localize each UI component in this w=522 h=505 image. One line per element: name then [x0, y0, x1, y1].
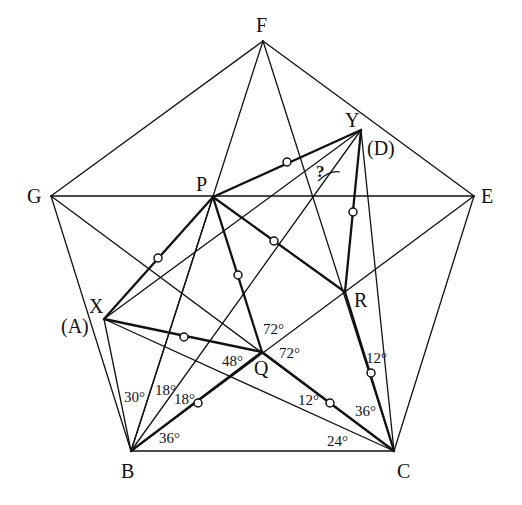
angle-B-36: 36°: [159, 430, 180, 446]
equal-length-mark-icon: [180, 333, 188, 341]
angle-Q-48: 48°: [222, 353, 243, 369]
label-A-alias: (A): [61, 315, 89, 338]
label-D-alias: (D): [367, 137, 395, 160]
thin-lines: [51, 41, 474, 451]
angle-Q-72a: 72°: [263, 321, 284, 337]
segment-XC: [104, 319, 394, 451]
equal-length-mark-icon: [234, 271, 242, 279]
segment-EC: [394, 196, 474, 451]
pentagon-diagram: F G E B C P Q R X Y (A) (D) ? 30° 18° 18…: [0, 0, 522, 505]
label-B: B: [121, 460, 134, 482]
segment-XY: [104, 130, 361, 319]
angle-B-30: 30°: [124, 389, 145, 405]
label-F: F: [256, 14, 267, 36]
angle-B-18b: 18°: [174, 391, 195, 407]
label-Q: Q: [254, 357, 269, 379]
unknown-angle-label: ?: [316, 162, 325, 181]
segment-PR: [213, 197, 345, 292]
angle-Q-72b: 72°: [279, 345, 300, 361]
angle-B-18a: 18°: [155, 382, 176, 398]
segment-GF: [51, 41, 263, 196]
equal-length-mark-icon: [326, 399, 334, 407]
label-Y: Y: [345, 109, 359, 131]
angle-R-12: 12°: [366, 350, 387, 366]
equal-length-mark-icon: [194, 399, 202, 407]
equal-length-mark-icon: [349, 208, 357, 216]
thick-lines: [104, 130, 394, 451]
angle-C-24: 24°: [327, 433, 348, 449]
segment-BP: [131, 197, 213, 451]
equal-length-mark-icon: [270, 237, 278, 245]
equal-length-mark-icon: [283, 158, 291, 166]
segment-XB: [104, 319, 131, 451]
label-R: R: [354, 289, 368, 311]
angle-C-36: 36°: [355, 403, 376, 419]
label-G: G: [27, 185, 41, 207]
equal-length-mark-icon: [367, 369, 375, 377]
segment-FE: [263, 41, 474, 196]
label-P: P: [196, 173, 207, 195]
label-E: E: [481, 185, 493, 207]
label-C: C: [397, 460, 410, 482]
equal-length-mark-icon: [154, 254, 162, 262]
label-X: X: [89, 295, 104, 317]
angle-C-12: 12°: [298, 392, 319, 408]
